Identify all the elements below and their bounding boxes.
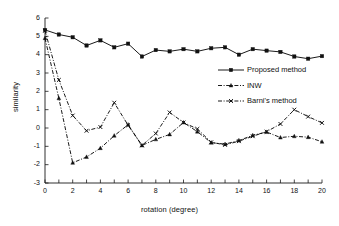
y-tick-label: 4 bbox=[24, 50, 40, 57]
x-tick-label: 18 bbox=[284, 187, 304, 194]
legend-label-1: INW bbox=[247, 81, 262, 90]
x-tick-label: 10 bbox=[174, 187, 194, 194]
legend-label-2: Barni's method bbox=[247, 96, 297, 105]
x-tick-label: 0 bbox=[35, 187, 55, 194]
y-tick-label: 5 bbox=[24, 32, 40, 39]
chart-series-0 bbox=[43, 28, 323, 60]
legend-label-0: Proposed method bbox=[247, 65, 306, 74]
y-axis-label: similarity bbox=[11, 82, 20, 112]
x-tick-label: 14 bbox=[229, 187, 249, 194]
y-tick-label: 1 bbox=[24, 105, 40, 112]
y-tick-label: -1 bbox=[24, 142, 40, 149]
x-tick-label: 12 bbox=[201, 187, 221, 194]
y-tick-label: 0 bbox=[24, 124, 40, 131]
y-tick-label: -2 bbox=[24, 160, 40, 167]
x-tick-label: 16 bbox=[257, 187, 277, 194]
y-tick-label: -3 bbox=[24, 179, 40, 186]
y-tick-label: 2 bbox=[24, 87, 40, 94]
y-axis-label-wrapper: similarity bbox=[4, 62, 22, 132]
chart-legend bbox=[218, 68, 244, 103]
y-tick-label: 3 bbox=[24, 69, 40, 76]
y-tick-label: 6 bbox=[24, 14, 40, 21]
x-tick-label: 20 bbox=[312, 187, 332, 194]
x-tick-label: 6 bbox=[118, 187, 138, 194]
chart-figure: similarity rotation (degree) -3-2-101234… bbox=[0, 0, 339, 226]
x-tick-label: 4 bbox=[90, 187, 110, 194]
x-tick-label: 2 bbox=[63, 187, 83, 194]
x-tick-label: 8 bbox=[146, 187, 166, 194]
x-axis-label: rotation (degree) bbox=[0, 205, 339, 214]
